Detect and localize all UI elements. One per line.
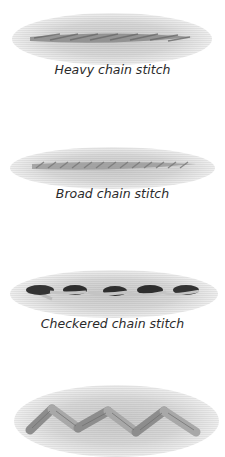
zigzag-chain-stitch-illustration: [0, 0, 225, 448]
